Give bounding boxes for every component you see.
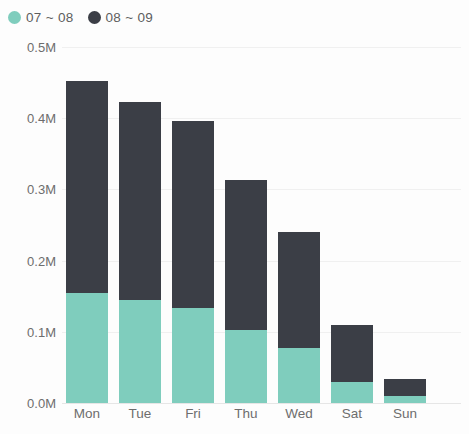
x-axis-tick-label: Tue	[119, 406, 161, 421]
bar-group[interactable]	[172, 121, 214, 403]
chart-legend: 07 ~ 08 08 ~ 09	[8, 6, 153, 28]
y-axis-tick-label: 0.4M	[2, 111, 56, 126]
x-axis-baseline	[62, 403, 461, 404]
legend-item-07-08[interactable]: 07 ~ 08	[8, 10, 74, 25]
legend-label: 08 ~ 09	[106, 10, 154, 25]
x-axis: MonTueFriThuWedSatSun	[62, 406, 461, 432]
plot-area	[62, 47, 461, 403]
bar-segment-08-09[interactable]	[119, 102, 161, 300]
gridline	[62, 47, 461, 48]
bar-segment-08-09[interactable]	[225, 180, 267, 330]
legend-swatch-circle-icon	[88, 11, 101, 24]
bar-group[interactable]	[384, 379, 426, 403]
x-axis-tick-label: Sun	[384, 406, 426, 421]
x-axis-tick-label: Wed	[278, 406, 320, 421]
bar-group[interactable]	[66, 81, 108, 403]
bar-segment-08-09[interactable]	[66, 81, 108, 293]
y-axis-tick-label: 0.1M	[2, 324, 56, 339]
x-axis-tick-label: Thu	[225, 406, 267, 421]
x-axis-tick-label: Sat	[331, 406, 373, 421]
y-axis-tick-label: 0.3M	[2, 182, 56, 197]
x-axis-tick-label: Mon	[66, 406, 108, 421]
y-axis-tick-label: 0.0M	[2, 396, 56, 411]
legend-item-08-09[interactable]: 08 ~ 09	[88, 10, 154, 25]
y-axis-tick-label: 0.2M	[2, 253, 56, 268]
bar-segment-07-08[interactable]	[66, 293, 108, 403]
bar-segment-07-08[interactable]	[172, 308, 214, 403]
bar-segment-07-08[interactable]	[331, 382, 373, 403]
y-axis-tick-label: 0.5M	[2, 40, 56, 55]
legend-swatch-circle-icon	[8, 11, 21, 24]
bar-segment-08-09[interactable]	[172, 121, 214, 308]
stacked-bar-chart: 07 ~ 08 08 ~ 09 0.5M 0.4M 0.3M 0.2M 0.1M…	[0, 0, 469, 434]
bar-segment-08-09[interactable]	[331, 325, 373, 382]
bar-group[interactable]	[331, 325, 373, 403]
bar-segment-08-09[interactable]	[278, 232, 320, 348]
bar-group[interactable]	[119, 102, 161, 403]
legend-label: 07 ~ 08	[26, 10, 74, 25]
y-axis: 0.5M 0.4M 0.3M 0.2M 0.1M 0.0M	[0, 47, 56, 403]
bar-segment-08-09[interactable]	[384, 379, 426, 396]
x-axis-tick-label: Fri	[172, 406, 214, 421]
bar-segment-07-08[interactable]	[384, 396, 426, 403]
bar-group[interactable]	[278, 232, 320, 403]
bar-segment-07-08[interactable]	[278, 348, 320, 403]
bar-group[interactable]	[225, 180, 267, 403]
bar-segment-07-08[interactable]	[119, 300, 161, 403]
bar-segment-07-08[interactable]	[225, 330, 267, 403]
